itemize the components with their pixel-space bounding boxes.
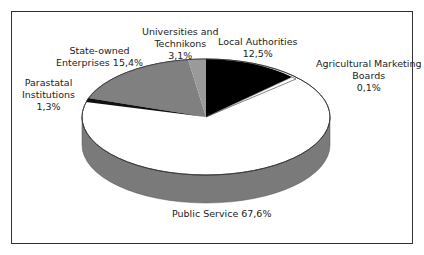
label-universities: Universities and Technikons 3,1% xyxy=(142,26,219,62)
label-agricultural: Agricultural Marketing Boards 0,1% xyxy=(316,58,421,94)
label-local-authorities: Local Authorities 12,5% xyxy=(218,36,297,60)
label-state-owned: State-owned Enterprises 15,4% xyxy=(56,45,143,69)
label-parastatal: Parastatal Institutions 1,3% xyxy=(22,77,75,113)
label-public-service: Public Service 67,6% xyxy=(172,208,271,220)
